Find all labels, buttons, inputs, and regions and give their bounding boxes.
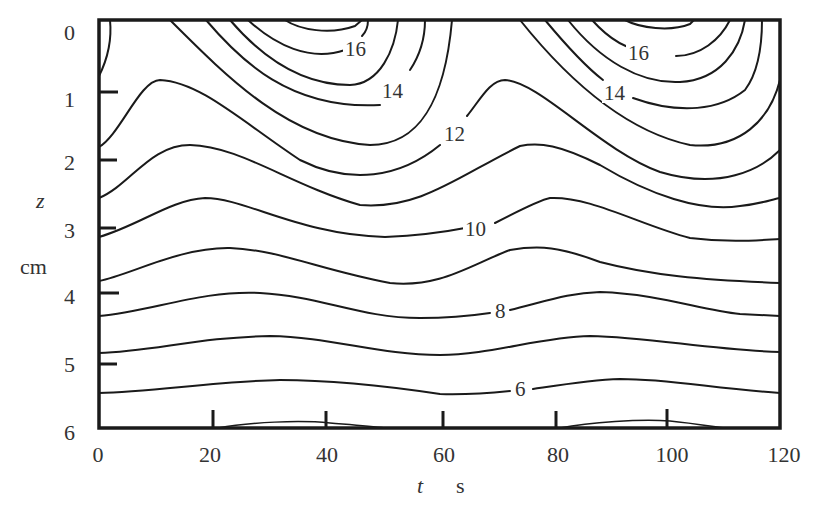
- y-tick-1: 1: [64, 87, 75, 112]
- x-tick-20: 20: [199, 442, 221, 467]
- y-tick-4: 4: [64, 284, 75, 309]
- x-axis-title-unit: s: [456, 473, 465, 498]
- y-tick-0: 0: [64, 20, 75, 45]
- contour-label-14b: 14: [604, 81, 626, 105]
- x-tick-0: 0: [93, 442, 104, 467]
- x-axis-title-var: t: [417, 473, 424, 498]
- y-tick-6: 6: [64, 420, 75, 445]
- x-tick-labels: 0 20 40 60 80 100 120: [93, 442, 801, 467]
- y-tick-5: 5: [64, 352, 75, 377]
- contour-label-8: 8: [495, 299, 506, 323]
- y-tick-3: 3: [64, 218, 75, 243]
- x-tick-100: 100: [656, 442, 689, 467]
- y-axis-ticks: [99, 92, 119, 364]
- x-tick-40: 40: [316, 442, 338, 467]
- x-tick-60: 60: [433, 442, 455, 467]
- contour-label-16b: 16: [628, 41, 649, 65]
- y-axis-title-var: z: [35, 188, 45, 213]
- contour-label-16a: 16: [345, 37, 366, 61]
- contour-label-12a: 12: [444, 122, 465, 146]
- contour-chart: 16 14 12 10 8 6 16 14 0 1 2 3 4 5 6 0 2: [0, 0, 823, 511]
- y-axis-title-unit: cm: [20, 254, 47, 279]
- y-tick-2: 2: [64, 150, 75, 175]
- contour-labels: 16 14 12 10 8 6 16 14: [343, 37, 651, 401]
- contour-label-6: 6: [515, 377, 526, 401]
- y-tick-labels: 0 1 2 3 4 5 6: [64, 20, 75, 445]
- contour-lines: [99, 20, 780, 428]
- x-tick-80: 80: [547, 442, 569, 467]
- contour-label-14a: 14: [382, 79, 404, 103]
- x-tick-120: 120: [768, 442, 801, 467]
- contour-label-10: 10: [465, 217, 486, 241]
- x-axis-ticks: [213, 409, 667, 428]
